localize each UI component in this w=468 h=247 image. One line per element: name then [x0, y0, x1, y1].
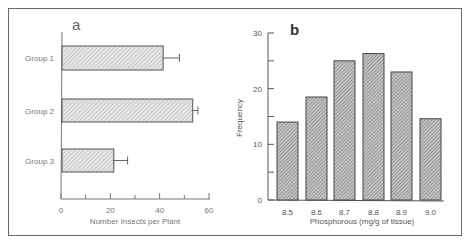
x-tick-label: 8.7 — [339, 208, 351, 217]
bar-8-7 — [334, 61, 355, 200]
y-tick-label: 30 — [253, 29, 262, 38]
y-tick-label: 20 — [253, 85, 262, 94]
x-axis-label-b: Phosphorous (mg/g of tissue) — [310, 217, 415, 226]
panel-label-a: a — [72, 16, 81, 33]
bar-group-1 — [62, 46, 163, 70]
x-tick-label: 8.8 — [368, 208, 380, 217]
x-tick-label: 9.0 — [425, 208, 437, 217]
x-tick-label: 8.6 — [311, 208, 323, 217]
x-tick-label: 60 — [205, 206, 214, 215]
bar-8-5 — [277, 122, 298, 200]
bar-group-2 — [62, 99, 193, 122]
bar-8-6 — [306, 97, 327, 200]
chart-a: a Group 1Group 2Group 3 0204060 Number I… — [25, 16, 214, 226]
chart-b: b 8.58.68.78.88.99.0 0102030 Phosphorous… — [235, 21, 444, 226]
bar-9-0 — [420, 119, 441, 200]
x-tick-label: 0 — [59, 206, 64, 215]
category-label: Group 3 — [25, 157, 54, 166]
category-label: Group 1 — [25, 54, 54, 63]
x-tick-label: 8.9 — [396, 208, 408, 217]
panel-label-b: b — [290, 21, 299, 38]
figure-svg: a Group 1Group 2Group 3 0204060 Number I… — [0, 0, 468, 247]
x-tick-label: 8.5 — [282, 208, 294, 217]
bar-8-9 — [391, 72, 412, 200]
bar-group-3 — [62, 149, 114, 172]
x-tick-label: 20 — [106, 206, 115, 215]
bar-8-8 — [363, 54, 384, 200]
category-label: Group 2 — [25, 107, 54, 116]
y-tick-label: 10 — [253, 140, 262, 149]
x-axis-label-a: Number Insects per Plant — [90, 217, 181, 226]
y-axis-label-b: Frequency — [235, 99, 244, 137]
y-tick-label: 0 — [258, 196, 263, 205]
x-tick-label: 40 — [155, 206, 164, 215]
